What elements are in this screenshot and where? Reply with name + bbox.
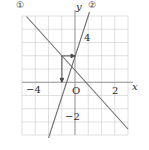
y-tick-label-minus2: −2 [65,112,80,122]
coordinate-graph [0,0,149,150]
origin-label: O [72,86,80,96]
x-tick-label-2: 2 [112,86,118,96]
y-tick-label-4: 4 [84,33,90,43]
x-tick-label-minus4: −4 [26,85,41,95]
x-axis-label: x [132,82,138,92]
line-1-tag: ① [16,1,24,10]
y-axis-label: y [76,2,82,12]
line-2-tag: ② [88,1,96,10]
